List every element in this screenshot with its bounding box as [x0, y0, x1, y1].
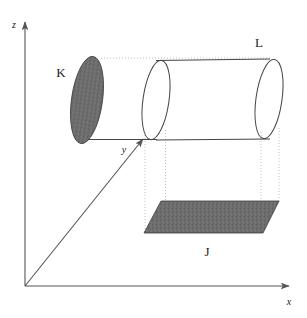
labels-group: K L J x y z: [11, 19, 292, 307]
label-y: y: [121, 144, 127, 155]
cylinder-left-cap: [138, 59, 175, 142]
label-z: z: [11, 19, 16, 30]
figure-canvas: K L J x y z: [0, 0, 307, 318]
geometry-diagram: K L J x y z: [0, 0, 307, 318]
label-K: K: [56, 65, 66, 80]
shape-J-group: [144, 201, 279, 233]
y-axis: [25, 139, 143, 286]
cylinder-bottom-generator: [156, 139, 270, 140]
label-x: x: [286, 296, 292, 307]
parallelogram-J: [144, 201, 279, 233]
label-J: J: [204, 244, 209, 259]
cylinder-top-generator: [156, 59, 270, 61]
label-L: L: [255, 35, 263, 50]
cylinder-right-cap: [251, 58, 288, 141]
ellipse-K: [66, 54, 109, 145]
shape-L-cylinder-group: [138, 58, 288, 142]
